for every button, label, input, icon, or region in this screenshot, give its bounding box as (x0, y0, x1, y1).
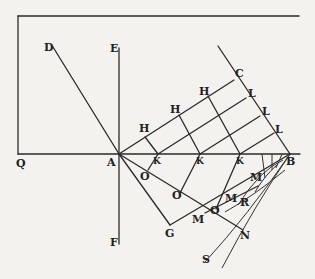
label-A: A (107, 157, 116, 168)
label-E: E (110, 43, 118, 54)
label-F: F (110, 237, 118, 248)
line-H2-K2 (179, 115, 200, 154)
label-R: R (240, 197, 249, 208)
geometric-figure: D E Q A F B C G N S H H H L L L K K K O … (0, 0, 315, 279)
label-N: N (240, 230, 250, 241)
label-M1: M (192, 214, 204, 225)
label-H2: H (170, 104, 180, 115)
label-H3: H (199, 86, 209, 97)
label-C: C (235, 68, 244, 79)
line-H1-K1 (145, 137, 158, 154)
label-B: B (286, 156, 295, 167)
label-K2: K (196, 157, 204, 166)
label-K3: K (236, 157, 244, 166)
line-DA (53, 47, 119, 154)
label-Q: Q (16, 158, 26, 169)
line-CB (218, 46, 290, 154)
label-S: S (202, 254, 210, 265)
label-K1: K (153, 157, 161, 166)
line-AG (119, 154, 170, 225)
label-O3: O (210, 205, 220, 216)
label-L1: L (248, 88, 256, 99)
label-D: D (44, 42, 54, 53)
label-M2: M (225, 193, 237, 204)
line-K3-L3 (240, 133, 274, 154)
label-M3: M (250, 172, 262, 183)
label-L3: L (275, 124, 283, 135)
label-O2: O (172, 190, 182, 201)
label-O1: O (140, 171, 150, 182)
label-G: G (165, 228, 174, 239)
label-L2: L (262, 106, 270, 117)
label-H1: H (139, 123, 149, 134)
